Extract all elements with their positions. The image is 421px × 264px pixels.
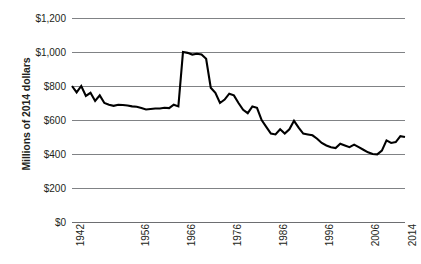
plot-area [72, 18, 405, 222]
y-tick-label-0: $0 [20, 217, 66, 228]
chart-container: Millions of 2014 dollars $0 $200 $400 $6… [0, 0, 421, 264]
y-tick-label-1200: $1,200 [20, 13, 66, 24]
y-tick-label-200: $200 [20, 183, 66, 194]
y-axis-tick-labels: $0 $200 $400 $600 $800 $1,000 $1,200 [20, 0, 66, 264]
series-line [72, 18, 405, 222]
x-axis-line [72, 222, 405, 223]
x-tick-label-1956: 1956 [140, 224, 151, 246]
x-tick-label-2006: 2006 [370, 224, 381, 246]
y-tick-label-800: $800 [20, 81, 66, 92]
x-tick-label-1996: 1996 [324, 224, 335, 246]
x-tick-label-1986: 1986 [278, 224, 289, 246]
x-tick-label-1942: 1942 [75, 224, 86, 246]
y-tick-label-600: $600 [20, 115, 66, 126]
y-tick-label-400: $400 [20, 149, 66, 160]
x-tick-label-1976: 1976 [232, 224, 243, 246]
x-tick-label-2014: 2014 [407, 224, 418, 246]
y-tick-label-1000: $1,000 [20, 47, 66, 58]
x-axis-tick-labels: 1942 1956 1966 1976 1986 1996 2006 2014 [72, 224, 405, 264]
x-tick-label-1966: 1966 [186, 224, 197, 246]
